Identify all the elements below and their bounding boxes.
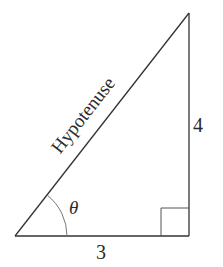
- hypotenuse-side: [15, 13, 189, 236]
- angle-label: θ: [69, 197, 78, 218]
- hypotenuse-label: Hypotenuse: [47, 73, 119, 157]
- angle-arc: [47, 195, 67, 236]
- right-triangle-diagram: θ 3 4 Hypotenuse: [0, 0, 223, 267]
- opposite-side-label: 4: [193, 114, 203, 136]
- adjacent-side-label: 3: [96, 241, 106, 263]
- right-angle-marker: [161, 208, 189, 236]
